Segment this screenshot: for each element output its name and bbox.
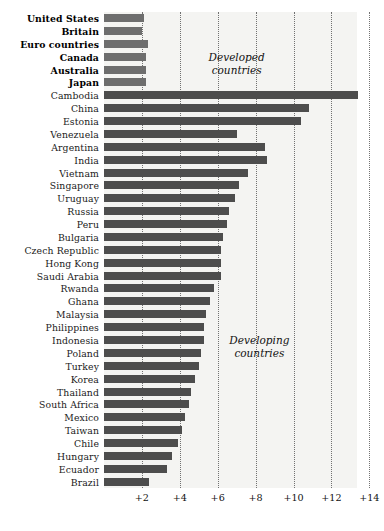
tick-label-+8: +8 [241,492,271,503]
gridline-+14 [369,12,371,488]
tick-label-+2: +2 [127,492,157,503]
tick-label-+4: +4 [165,492,195,503]
tick-label-+10: +10 [279,492,309,503]
tick-label-+14: +14 [354,492,384,503]
tick-label-+6: +6 [203,492,233,503]
x-axis-baseline [104,488,357,489]
tick-label-+12: +12 [316,492,346,503]
